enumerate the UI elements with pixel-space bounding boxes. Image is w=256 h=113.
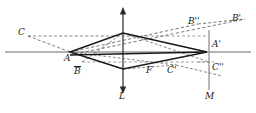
label-c-prime: C' [167,66,176,75]
geometry-figure: C A B F C' B'' B' A' C'' L M [0,0,256,113]
label-c-double-prime: C'' [212,63,224,72]
label-l: L [119,92,125,101]
label-b-double-prime: B'' [188,17,200,26]
label-b-bar: B [74,66,81,76]
label-m: M [205,92,214,101]
label-a: A [64,54,71,63]
label-b-prime: B' [232,14,241,23]
dashed-a-to-bdprime [70,24,198,52]
dashed-top-to-cdprime [123,33,209,62]
label-a-prime: A' [212,40,221,49]
label-f: F [146,66,152,75]
dashed-c-to-a [28,36,70,52]
dashed-bottom-to-bprime [70,19,245,55]
label-c: C [18,28,25,37]
figure-canvas [0,0,256,113]
axis-arrow-up-icon [120,7,126,15]
